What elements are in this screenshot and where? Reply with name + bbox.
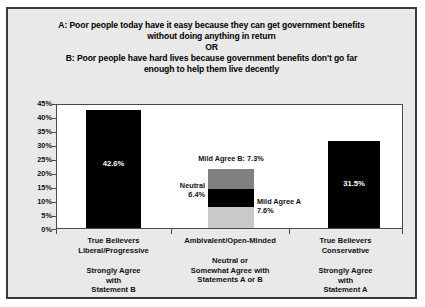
- x-category-label-3: True Believers Conservative: [289, 236, 402, 255]
- x-category-label-1: True Believers Liberal/Progressive: [56, 236, 171, 255]
- y-tick-label-10: 10%: [20, 198, 52, 206]
- x-sublabel-3-line-3: Statement A: [289, 285, 402, 295]
- y-tick-label-15: 15%: [20, 184, 52, 192]
- x-category-2-line-1: Ambivalent/Open-Minded: [168, 236, 292, 246]
- x-sublabel-1-line-1: Strongly Agree: [56, 266, 171, 276]
- bar-true-believers-liberal[interactable]: 42.6%: [86, 110, 141, 228]
- title-line-4: enough to help them live decently: [18, 64, 405, 75]
- y-tick-label-25: 25%: [20, 156, 52, 164]
- bar-value-label-1: 42.6%: [86, 159, 141, 168]
- callout-mild-agree-a-line-1: Mild Agree A: [257, 197, 347, 206]
- title-line-or: OR: [18, 42, 405, 53]
- callout-mild-agree-a: Mild Agree A 7.6%: [257, 197, 347, 215]
- x-tick-mark-right: [402, 229, 403, 234]
- x-sublabel-3-line-2: with: [289, 276, 402, 286]
- chart-title: A: Poor people today have it easy becaus…: [18, 20, 405, 75]
- bar-value-label-3: 31.5%: [328, 179, 380, 188]
- x-sublabel-2-line-2: Somewhat Agree with: [163, 266, 297, 276]
- y-tick-label-35: 35%: [20, 128, 52, 136]
- bar-segment-neutral: [208, 189, 254, 207]
- callout-mild-agree-b: Mild Agree B: 7.3%: [173, 154, 289, 163]
- x-sublabel-2-line-1: Neutral or: [163, 256, 297, 266]
- y-tick-label-30: 30%: [20, 142, 52, 150]
- x-category-3-line-2: Conservative: [289, 246, 402, 256]
- x-category-label-2: Ambivalent/Open-Minded: [168, 236, 292, 246]
- x-category-1-line-1: True Believers: [56, 236, 171, 246]
- bar-segment-strongly-agree-b: [86, 110, 141, 228]
- y-tick-label-40: 40%: [20, 114, 52, 122]
- callout-neutral-line-1: Neutral: [143, 181, 205, 190]
- x-sublabel-3: Strongly Agree with Statement A: [289, 266, 402, 295]
- x-category-3-line-1: True Believers: [289, 236, 402, 246]
- x-sublabel-2-line-3: Statements A or B: [163, 275, 297, 285]
- x-sublabel-2: Neutral or Somewhat Agree with Statement…: [163, 256, 297, 285]
- x-tick-mark-2: [289, 229, 290, 234]
- x-sublabel-1: Strongly Agree with Statement B: [56, 266, 171, 295]
- y-tick-label-5: 5%: [20, 212, 52, 220]
- plot-area: 42.6% 31.5% Mild Agree B: 7.3% Neutral 6…: [56, 104, 403, 229]
- x-tick-mark-left: [56, 229, 57, 234]
- callout-neutral: Neutral 6.4%: [143, 181, 205, 199]
- y-tick-label-45: 45%: [20, 100, 52, 108]
- callout-mild-agree-a-line-2: 7.6%: [257, 206, 347, 215]
- title-line-3: B: Poor people have hard lives because g…: [18, 53, 405, 64]
- title-line-1: A: Poor people today have it easy becaus…: [18, 20, 405, 31]
- callout-neutral-line-2: 6.4%: [143, 190, 205, 199]
- chart-figure: A: Poor people today have it easy becaus…: [6, 7, 417, 299]
- y-tick-label-0: 0%: [20, 226, 52, 234]
- x-sublabel-1-line-3: Statement B: [56, 285, 171, 295]
- y-axis: 45% 40% 35% 30% 25% 20% 15% 10% 5% 0%: [20, 97, 52, 237]
- x-sublabel-3-line-1: Strongly Agree: [289, 266, 402, 276]
- bar-ambivalent-open-minded[interactable]: [208, 169, 254, 228]
- title-line-2: without doing anything in return: [18, 31, 405, 42]
- x-category-1-line-2: Liberal/Progressive: [56, 246, 171, 256]
- bar-segment-mild-agree-a: [208, 207, 254, 228]
- bar-segment-mild-agree-b: [208, 169, 254, 189]
- x-tick-mark-1: [171, 229, 172, 234]
- y-tick-label-20: 20%: [20, 170, 52, 178]
- x-sublabel-1-line-2: with: [56, 276, 171, 286]
